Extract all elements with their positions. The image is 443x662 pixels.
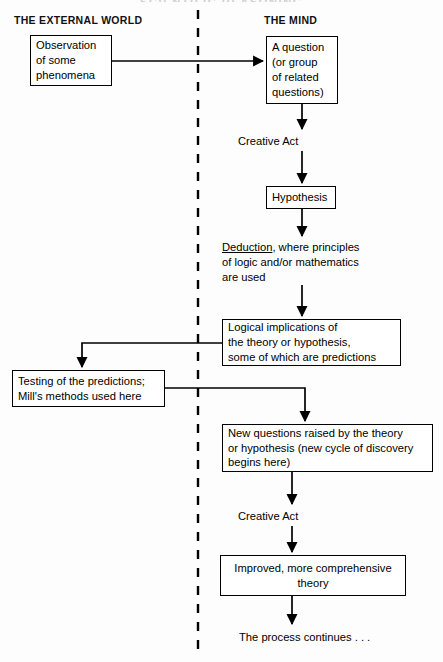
node-hypothesis-label: Hypothesis (267, 190, 335, 205)
node-new-questions: New questions raised by the theory or hy… (222, 424, 433, 472)
node-logical-implications: Logical implications of the theory or hy… (222, 319, 401, 366)
node-observation: Observation of some phenomena (30, 35, 112, 86)
label-deduction-block: Deduction, where principles of logic and… (222, 240, 359, 285)
node-testing: Testing of the predictions; Mill's metho… (12, 370, 165, 407)
label-creative-act-upper: Creative Act (238, 134, 298, 149)
node-observation-label: Observation of some phenomena (31, 38, 111, 82)
column-header-external-world: THE EXTERNAL WORLD (14, 14, 142, 26)
scientific-reasoning-diagram: SCIENTIFIC REASONING THE EXTERNAL WORLD … (0, 0, 443, 662)
column-header-the-mind: THE MIND (264, 14, 317, 26)
label-creative-act-lower: Creative Act (238, 509, 298, 524)
arrow-logical-implications-to-testing (82, 343, 222, 367)
label-process-continues: The process continues . . . (239, 630, 370, 645)
node-testing-label: Testing of the predictions; Mill's metho… (13, 374, 164, 404)
page-title-clipped: SCIENTIFIC REASONING (0, 0, 443, 2)
node-improved-theory: Improved, more comprehensive theory (220, 555, 406, 596)
node-improved-theory-label: Improved, more comprehensive theory (221, 561, 405, 591)
node-logical-implications-label: Logical implications of the theory or hy… (223, 320, 400, 364)
arrow-testing-to-new-questions (165, 388, 305, 421)
node-new-questions-label: New questions raised by the theory or hy… (223, 426, 432, 470)
node-hypothesis: Hypothesis (266, 186, 336, 209)
label-deduction-underlined: Deduction (222, 241, 272, 253)
node-question: A question (or group of related question… (266, 36, 338, 104)
node-question-label: A question (or group of related question… (267, 40, 337, 99)
